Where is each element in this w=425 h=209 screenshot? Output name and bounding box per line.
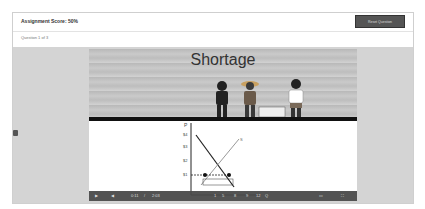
svg-text:P: P: [184, 122, 188, 128]
svg-text:$2: $2: [183, 158, 188, 163]
svg-text:S: S: [240, 137, 243, 142]
panel-header: Assignment Score: 50% Reset Question: [13, 13, 413, 32]
svg-text:$4: $4: [183, 132, 188, 137]
svg-text:$3: $3: [183, 144, 188, 149]
people-illustration-icon: [89, 49, 357, 121]
question-counter: Question 1 of 3: [21, 35, 48, 40]
q-tick-12: 12: [256, 193, 260, 198]
q-axis-label: Q: [265, 193, 268, 198]
captions-icon[interactable]: ▭: [319, 193, 323, 198]
current-time: 0:11: [131, 193, 139, 198]
assignment-score: Assignment Score: 50%: [21, 18, 78, 24]
video-controls: ▶ ◀ 0:11 / 2:03 1 5 8 9 12 Q ▭ ⛶: [89, 191, 357, 201]
supply-demand-graph: P $4 $3 $2 $1 S: [89, 121, 357, 201]
q-tick-5: 5: [222, 193, 224, 198]
q-tick-1: 1: [214, 193, 216, 198]
video-stage: Shortage: [13, 47, 413, 203]
play-icon[interactable]: ▶: [95, 193, 98, 198]
q-tick-9: 9: [246, 193, 248, 198]
video-scene: Shortage: [89, 49, 357, 121]
video-player[interactable]: Shortage: [89, 49, 357, 201]
drag-handle-icon[interactable]: [13, 130, 18, 136]
duration: 2:03: [152, 193, 160, 198]
time-separator: /: [144, 193, 145, 198]
assignment-panel: Assignment Score: 50% Reset Question Que…: [12, 12, 414, 204]
volume-icon[interactable]: ◀: [111, 193, 114, 198]
reset-question-button[interactable]: Reset Question: [355, 15, 405, 28]
fullscreen-icon[interactable]: ⛶: [341, 193, 344, 198]
q-tick-8: 8: [234, 193, 236, 198]
svg-text:$1: $1: [183, 172, 188, 177]
